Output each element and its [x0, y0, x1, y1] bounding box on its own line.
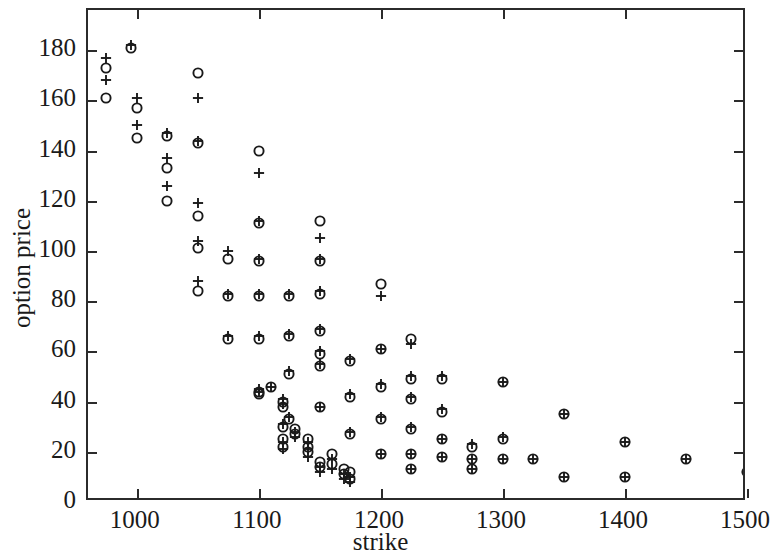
data-point-plus	[405, 420, 418, 433]
y-axis-tick-label: 140	[0, 135, 76, 163]
data-point-plus	[191, 91, 204, 104]
data-point-plus	[277, 398, 290, 411]
data-point-plus	[435, 433, 448, 446]
data-point-plus	[344, 425, 357, 438]
data-point-plus	[265, 380, 278, 393]
data-point-plus	[313, 400, 326, 413]
y-axis-tick	[88, 402, 97, 404]
data-point-plus	[374, 290, 387, 303]
x-axis-tick	[503, 489, 505, 498]
data-point-plus	[466, 438, 479, 451]
data-point-plus	[252, 167, 265, 180]
data-point-plus	[252, 330, 265, 343]
data-point-plus	[527, 453, 540, 466]
data-point-plus	[344, 352, 357, 365]
y-axis-tick-label: 40	[0, 386, 76, 414]
data-point-plus	[374, 342, 387, 355]
y-axis-tick-label: 20	[0, 436, 76, 464]
x-axis-title: strike	[0, 528, 761, 556]
data-point-plus	[222, 244, 235, 257]
y-axis-tick-right	[734, 351, 743, 353]
data-point-plus	[557, 470, 570, 483]
data-point-circle	[374, 277, 387, 290]
plot-frame	[86, 8, 745, 500]
data-point-plus	[496, 430, 509, 443]
data-point-plus	[344, 388, 357, 401]
data-point-plus	[313, 232, 326, 245]
y-axis-tick-right	[734, 50, 743, 52]
y-axis-tick-label: 180	[0, 34, 76, 62]
y-axis-tick-right	[734, 251, 743, 253]
data-point-plus	[283, 410, 296, 423]
data-point-plus	[289, 430, 302, 443]
data-point-plus	[374, 448, 387, 461]
y-axis-tick-label: 160	[0, 84, 76, 112]
x-axis-tick-top	[381, 10, 383, 19]
data-point-plus	[313, 345, 326, 358]
data-point-plus	[405, 337, 418, 350]
y-axis-tick	[88, 452, 97, 454]
data-point-plus	[252, 252, 265, 265]
y-axis-tick-right	[734, 452, 743, 454]
data-point-plus	[313, 465, 326, 478]
data-point-plus	[435, 370, 448, 383]
x-axis-tick-top	[625, 10, 627, 19]
data-point-plus	[466, 463, 479, 476]
data-point-circle	[191, 66, 204, 79]
data-point-plus	[344, 475, 357, 488]
x-axis-tick	[625, 489, 627, 498]
data-point-plus	[100, 74, 113, 87]
data-point-plus	[191, 134, 204, 147]
x-axis-tick	[381, 489, 383, 498]
data-point-plus	[191, 197, 204, 210]
y-axis-tick	[88, 351, 97, 353]
y-axis-tick-right	[734, 402, 743, 404]
data-point-plus	[191, 275, 204, 288]
data-point-plus	[130, 91, 143, 104]
data-point-plus	[277, 443, 290, 456]
data-point-plus	[405, 390, 418, 403]
data-point-plus	[496, 453, 509, 466]
y-axis-tick	[88, 151, 97, 153]
data-point-plus	[100, 51, 113, 64]
data-point-plus	[374, 378, 387, 391]
y-axis-tick-right	[734, 201, 743, 203]
data-point-plus	[161, 179, 174, 192]
y-axis-tick	[88, 301, 97, 303]
data-point-plus	[741, 465, 744, 478]
data-point-plus	[283, 287, 296, 300]
data-point-plus	[130, 119, 143, 132]
data-point-plus	[124, 39, 137, 52]
data-point-plus	[313, 357, 326, 370]
data-point-plus	[252, 287, 265, 300]
y-axis-tick-label: 0	[0, 486, 76, 514]
data-point-plus	[435, 403, 448, 416]
data-point-circle	[130, 132, 143, 145]
data-point-plus	[405, 448, 418, 461]
y-axis-tick	[88, 50, 97, 52]
x-axis-tick-top	[503, 10, 505, 19]
data-point-circle	[313, 214, 326, 227]
y-axis-tick-right	[734, 151, 743, 153]
data-point-plus	[161, 152, 174, 165]
data-point-circle	[100, 91, 113, 104]
data-point-plus	[326, 463, 339, 476]
data-point-plus	[313, 252, 326, 265]
data-point-plus	[313, 285, 326, 298]
x-axis-tick	[747, 489, 749, 498]
x-axis-tick	[137, 489, 139, 498]
data-point-circle	[191, 209, 204, 222]
data-point-plus	[405, 463, 418, 476]
y-axis-title: option price	[8, 168, 36, 368]
data-point-plus	[618, 435, 631, 448]
data-point-plus	[283, 365, 296, 378]
data-point-plus	[301, 450, 314, 463]
data-point-plus	[283, 327, 296, 340]
x-axis-tick-top	[137, 10, 139, 19]
y-axis-tick	[88, 100, 97, 102]
data-point-plus	[557, 408, 570, 421]
y-axis-tick-right	[734, 301, 743, 303]
data-point-plus	[252, 385, 265, 398]
data-point-plus	[222, 330, 235, 343]
